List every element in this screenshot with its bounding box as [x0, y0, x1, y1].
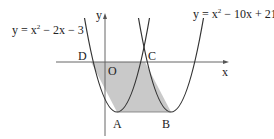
- eq-left-suffix: − 2x − 3: [40, 23, 84, 37]
- equation-left-label: y = x2 − 2x − 3: [12, 24, 84, 36]
- y-axis-arrow-icon: [103, 13, 107, 19]
- equation-right-label: y = x2 − 10x + 21: [193, 8, 274, 20]
- point-a-label: A: [113, 118, 122, 130]
- x-axis-label: x: [222, 66, 228, 78]
- point-c-label: C: [148, 50, 156, 62]
- x-axis-arrow-icon: [223, 60, 229, 64]
- eq-right-prefix: y = x: [193, 7, 218, 21]
- eq-left-prefix: y = x: [12, 23, 37, 37]
- point-b-label: B: [162, 118, 170, 130]
- y-axis-label: y: [96, 9, 102, 21]
- eq-right-suffix: − 10x + 21: [221, 7, 274, 21]
- shaded-region: [91, 62, 171, 112]
- origin-label: O: [108, 65, 117, 77]
- point-d-label: D: [78, 50, 87, 62]
